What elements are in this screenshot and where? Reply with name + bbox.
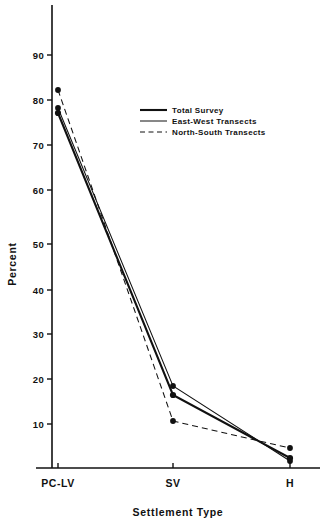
legend-item-north-south-transects: North-South Transects	[140, 128, 266, 137]
chart-legend: Total Survey East-West Transects North-S…	[140, 106, 266, 137]
legend-label-north-south-transects: North-South Transects	[172, 128, 266, 137]
y-tick-label-90: 90	[33, 50, 44, 61]
x-tick-labels: PC-LV SV H	[41, 477, 294, 489]
x-tick-label-h: H	[286, 477, 294, 489]
series-line-east-west	[58, 108, 290, 461]
y-tick-label-70: 70	[33, 140, 44, 151]
y-tick-label-20: 20	[33, 374, 44, 385]
legend-item-east-west-transects: East-West Transects	[140, 117, 257, 126]
data-point-north-south-h	[287, 445, 293, 451]
x-axis-title: Settlement Type	[133, 506, 224, 518]
data-point-total-survey-pc-lv	[55, 110, 61, 116]
y-tick-label-50: 50	[33, 239, 44, 250]
chart-figure: 90 80 70 60 50 40 30 20 10 PC-LV SV H Pe…	[0, 0, 323, 525]
legend-label-east-west-transects: East-West Transects	[172, 117, 257, 126]
legend-label-total-survey: Total Survey	[172, 106, 224, 115]
series-line-total-survey	[58, 113, 290, 458]
y-tick-label-30: 30	[33, 329, 44, 340]
series-east-west-transects	[55, 105, 293, 464]
y-tick-labels: 90 80 70 60 50 40 30 20 10	[33, 50, 44, 430]
y-tick-label-60: 60	[33, 185, 44, 196]
series-total-survey	[55, 110, 293, 461]
data-point-total-survey-sv	[170, 392, 176, 398]
data-point-north-south-pc-lv	[55, 87, 61, 93]
y-tick-label-40: 40	[33, 285, 44, 296]
y-axis-title: Percent	[6, 242, 18, 285]
x-tick-label-pc-lv: PC-LV	[41, 477, 75, 489]
y-tick-label-80: 80	[33, 95, 44, 106]
legend-item-total-survey: Total Survey	[140, 106, 224, 115]
x-tick-label-sv: SV	[165, 477, 180, 489]
y-tick-label-10: 10	[33, 419, 44, 430]
data-point-total-survey-h	[287, 455, 293, 461]
data-point-north-south-sv	[170, 418, 176, 424]
chart-canvas: 90 80 70 60 50 40 30 20 10 PC-LV SV H Pe…	[0, 0, 323, 525]
